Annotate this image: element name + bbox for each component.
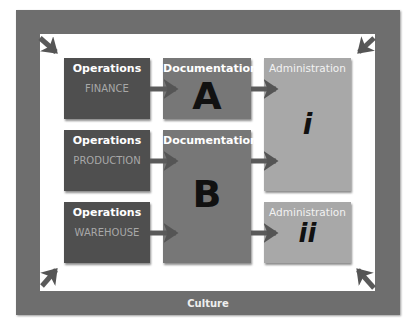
- corner-arrow-top-right-icon: [359, 38, 374, 52]
- corner-arrow-bottom-right-icon: [358, 270, 374, 288]
- corner-arrow-top-left-icon: [40, 38, 56, 52]
- arrows-layer: [0, 0, 415, 330]
- corner-arrow-bottom-left-icon: [42, 270, 56, 286]
